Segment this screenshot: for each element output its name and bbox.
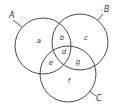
set-label-leaders	[13, 14, 103, 96]
set-label-b: B	[104, 5, 110, 14]
leader-line-c	[89, 91, 96, 96]
set-label-a: A	[8, 11, 14, 20]
region-label-b: b	[60, 34, 65, 42]
leader-line-a	[13, 20, 22, 27]
venn-diagram: ABC abcdefg	[0, 0, 119, 111]
set-label-c: C	[96, 94, 102, 103]
set-circle-c	[40, 46, 96, 102]
region-label-g: g	[76, 58, 81, 66]
set-circle-a	[15, 18, 71, 74]
region-label-e: e	[49, 59, 53, 67]
set-circles	[15, 14, 108, 102]
region-label-a: a	[37, 37, 41, 45]
leader-line-b	[98, 14, 103, 20]
set-labels: ABC	[8, 5, 110, 103]
region-label-d: d	[62, 48, 67, 56]
region-label-c: c	[84, 34, 88, 42]
region-label-f: f	[68, 77, 72, 85]
